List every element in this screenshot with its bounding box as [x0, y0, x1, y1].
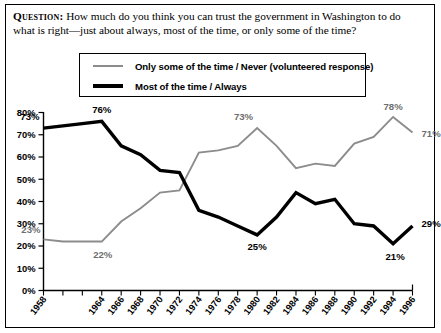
question-body: How much do you think you can trust the …	[13, 10, 401, 36]
question-text: Question: How much do you think you can …	[13, 9, 425, 38]
legend-swatch-black-line-icon	[93, 84, 123, 88]
chart-legend: Only some of the time / Never (volunteer…	[79, 53, 366, 97]
legend-label-some-never: Only some of the time / Never (volunteer…	[135, 61, 373, 72]
legend-label-most-always: Most of the time / Always	[135, 81, 247, 92]
question-label: Question:	[13, 10, 63, 22]
legend-item-some-never: Only some of the time / Never (volunteer…	[80, 55, 365, 77]
legend-swatch-gray-line-icon	[93, 65, 123, 68]
legend-item-most-always: Most of the time / Always	[80, 75, 365, 97]
chart-page: Question: How much do you think you can …	[0, 0, 441, 333]
